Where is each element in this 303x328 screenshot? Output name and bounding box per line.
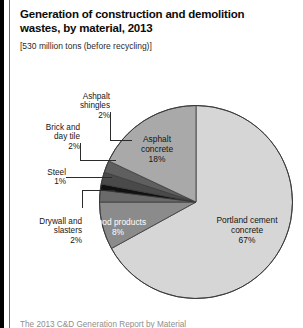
slice-label-wood-products: Wood products 8% bbox=[78, 207, 158, 237]
callout-text: Brick and day tile bbox=[46, 123, 80, 142]
leader-line-brick-and-day-tile-h bbox=[80, 160, 116, 161]
leader-line-ashpalt-shingles bbox=[110, 112, 111, 141]
slice-label-pct: 67% bbox=[239, 235, 256, 245]
footer-partial-text: The 2013 C&D Generation Report by Materi… bbox=[20, 320, 288, 328]
leader-line-ashpalt-shingles-h bbox=[110, 140, 132, 141]
callout-pct: 2% bbox=[14, 142, 80, 152]
chart-figure: Generation of construction and demolitio… bbox=[0, 0, 303, 328]
slice-label-pct: 8% bbox=[112, 227, 124, 237]
slice-label-text: Wood products bbox=[90, 217, 146, 227]
callout-pct: 1% bbox=[14, 177, 66, 187]
leader-line-steel bbox=[66, 177, 112, 178]
chart-subtitle: [530 million tons (before recycling)] bbox=[20, 41, 282, 52]
callout-text: Ashpalt shingles bbox=[80, 92, 110, 111]
leader-line-drywall-and-slasters bbox=[82, 190, 83, 208]
slice-label-text: Portland cement concrete bbox=[217, 215, 278, 235]
frame-left-bar bbox=[0, 0, 4, 328]
callout-text: Drywall and slasters bbox=[39, 217, 82, 236]
leader-line-brick-and-day-tile bbox=[80, 143, 81, 161]
frame-left-rule bbox=[9, 0, 10, 328]
leader-line-drywall-and-slasters-h bbox=[82, 190, 115, 191]
callout-pct: 2% bbox=[6, 236, 82, 246]
slice-label-asphalt-concrete: Asphalt concrete 18% bbox=[126, 124, 188, 164]
callout-steel: Steel 1% bbox=[14, 158, 66, 196]
callout-drywall-and-slasters: Drywall and slasters 2% bbox=[6, 207, 82, 255]
chart-title: Generation of construction and demolitio… bbox=[20, 7, 282, 35]
callout-brick-and-day-tile: Brick and day tile 2% bbox=[14, 113, 80, 161]
callout-text: Steel bbox=[47, 168, 66, 177]
slice-label-portland-cement-concrete: Portland cement concrete 67% bbox=[201, 205, 293, 245]
slice-label-text: Asphalt concrete bbox=[141, 134, 173, 154]
slice-label-pct: 18% bbox=[149, 154, 166, 164]
